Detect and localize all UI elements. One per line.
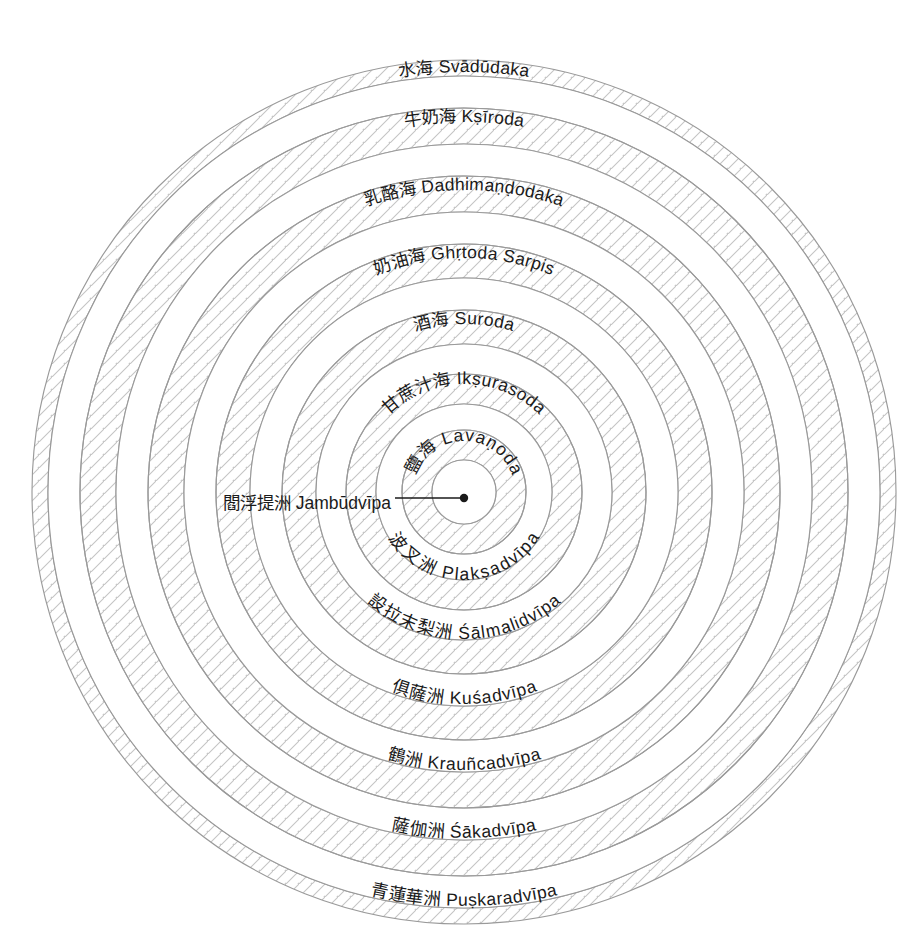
concentric-rings-svg: 鹽海 Lavaṇoda波叉洲 Plakṣadvīpa甘蔗汁海 Ikṣurasod… [0, 0, 918, 949]
jambudvipa-core-disc [432, 460, 496, 524]
center-dot [460, 494, 468, 502]
cosmology-diagram: 鹽海 Lavaṇoda波叉洲 Plakṣadvīpa甘蔗汁海 Ikṣurasod… [0, 0, 918, 949]
jambudvipa-label: 閻浮提洲 Jambūdvīpa [223, 493, 391, 513]
